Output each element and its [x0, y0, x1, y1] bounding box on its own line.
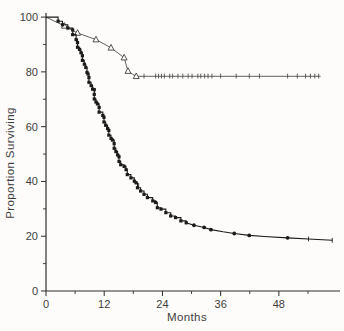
filled-square-marker [179, 219, 182, 222]
filled-square-marker [129, 176, 132, 179]
filled-square-marker [104, 124, 107, 127]
filled-square-marker [164, 211, 167, 214]
filled-square-marker [117, 160, 120, 163]
open-triangle-marker [108, 44, 114, 50]
filled-square-marker [114, 150, 117, 153]
filled-square-marker [174, 216, 177, 219]
filled-square-marker [146, 196, 149, 199]
y-tick-label: 80 [26, 66, 38, 78]
filled-square-marker [102, 120, 105, 123]
filled-square-marker [96, 102, 99, 105]
filled-square-marker [74, 38, 77, 41]
filled-square-marker [90, 84, 93, 87]
filled-square-marker [113, 142, 116, 145]
open-triangle-marker [125, 68, 131, 74]
filled-square-marker [126, 173, 129, 176]
filled-square-marker [84, 66, 87, 69]
x-tick-label: 48 [273, 298, 285, 310]
x-tick-label: 36 [215, 298, 227, 310]
filled-square-marker [124, 168, 127, 171]
x-tick-label: 12 [98, 298, 110, 310]
filled-square-marker [154, 201, 157, 204]
y-tick-label: 100 [20, 11, 38, 23]
y-tick-label: 40 [26, 175, 38, 187]
filled-square-marker [87, 76, 90, 79]
filled-square-marker [117, 155, 120, 158]
filled-square-marker [113, 147, 116, 150]
filled-square-marker [102, 116, 105, 119]
y-axis-title: Proportion Surviving [4, 107, 16, 219]
y-tick-label: 0 [32, 285, 38, 297]
filled-square-marker [134, 181, 137, 184]
x-tick-label: 0 [43, 298, 49, 310]
survival-plot: 020406080100012243648MonthsProportion Su… [0, 0, 344, 331]
filled-square-marker [86, 72, 89, 75]
filled-square-marker [93, 88, 96, 91]
filled-square-marker [98, 106, 101, 109]
open-triangle-marker [121, 54, 127, 60]
filled-square-marker [76, 41, 79, 44]
filled-square-marker [81, 54, 84, 57]
filled-square-marker [107, 134, 110, 137]
filled-square-marker [61, 23, 64, 26]
x-axis-title: Months [167, 311, 207, 323]
filled-square-marker [151, 199, 154, 202]
y-tick-label: 60 [26, 121, 38, 133]
filled-square-marker [83, 63, 86, 66]
filled-square-marker [81, 59, 84, 62]
filled-circle-marker [286, 236, 290, 240]
filled-circle-marker [192, 223, 196, 227]
filled-square-marker [119, 163, 122, 166]
filled-circle-marker [202, 226, 206, 230]
filled-square-marker [142, 193, 145, 196]
filled-square-marker [66, 26, 69, 29]
filled-square-marker [159, 208, 162, 211]
filled-square-marker [79, 51, 82, 54]
filled-square-marker [98, 111, 101, 114]
filled-square-marker [57, 20, 60, 23]
filled-square-marker [111, 138, 114, 141]
filled-square-marker [71, 33, 74, 36]
filled-square-marker [156, 206, 159, 209]
filled-circle-marker [232, 232, 236, 236]
lower-survival-curve [46, 17, 332, 240]
filled-square-marker [107, 129, 110, 132]
filled-square-marker [123, 165, 126, 168]
filled-square-marker [93, 93, 96, 96]
filled-square-marker [87, 81, 90, 84]
x-tick-label: 24 [156, 298, 168, 310]
open-triangle-marker [133, 73, 139, 79]
y-tick-label: 20 [26, 230, 38, 242]
filled-square-marker [169, 214, 172, 217]
filled-square-marker [139, 189, 142, 192]
filled-square-marker [93, 97, 96, 100]
filled-square-marker [185, 221, 188, 224]
filled-square-marker [78, 48, 81, 51]
survival-figure: 020406080100012243648MonthsProportion Su… [0, 0, 344, 331]
filled-circle-marker [209, 228, 213, 232]
filled-circle-marker [247, 234, 251, 238]
filled-square-marker [71, 28, 74, 31]
